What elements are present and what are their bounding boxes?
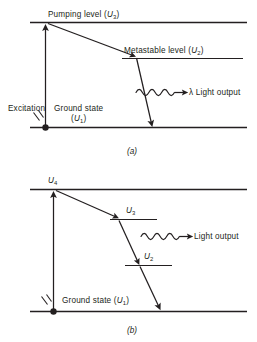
panel-b-nonradiative-decay-upper-arrow bbox=[56, 191, 116, 218]
panel-a-pumping-level-subscript: 3 bbox=[113, 14, 116, 20]
panel-a-ground-state-subscript: 1 bbox=[80, 118, 83, 124]
panel-b-ground-state-label: Ground state (U1) bbox=[62, 296, 129, 307]
panel-a-caption: (a) bbox=[127, 147, 137, 156]
panel-a-ground-state-label: Ground state(U1) bbox=[54, 104, 103, 124]
panel-a-metastable-label: Metastable level (U2) bbox=[124, 46, 204, 57]
panel-b-ground-state-paren: ) bbox=[126, 296, 129, 305]
panel-a-metastable-subscript: 2 bbox=[197, 50, 200, 56]
panel-b-level2-subscript: 2 bbox=[150, 256, 153, 262]
panel-a-ground-state-text: Ground state bbox=[54, 104, 103, 113]
panel-b-ground-state-text: Ground state ( bbox=[62, 296, 117, 305]
panel-a-nonradiative-decay-arrow bbox=[48, 24, 133, 56]
panel-b-level2-label: U2 bbox=[144, 252, 154, 263]
panel-b-radiative-decay-arrow bbox=[119, 221, 138, 263]
panel-b-caption: (b) bbox=[127, 326, 137, 335]
panel-b-level4-label: U4 bbox=[48, 176, 58, 187]
panel-a-excitation-hatch-1 bbox=[34, 113, 40, 121]
panel-b-level3-subscript: 3 bbox=[132, 210, 135, 216]
panel-a-pumping-level-text: Pumping level ( bbox=[48, 10, 107, 19]
energy-level-figure: Pumping level (U3) Metastable level (U2)… bbox=[0, 0, 257, 342]
panel-b-light-output-label: Light output bbox=[194, 232, 239, 242]
panel-a-lambda-symbol: λ bbox=[189, 88, 193, 97]
panel-b-photon-wave bbox=[141, 233, 179, 239]
panel-a-ground-state-node bbox=[42, 124, 48, 130]
panel-b-level4-subscript: 4 bbox=[54, 180, 57, 186]
panel-a-pumping-level-paren: ) bbox=[116, 10, 119, 19]
panel-b-level3-label: U3 bbox=[126, 206, 136, 217]
panel-a-photon-wave bbox=[136, 89, 174, 95]
panel-b-nonradiative-decay-lower-arrow bbox=[140, 267, 159, 308]
panel-b-excitation-hatch-1 bbox=[42, 297, 48, 305]
panel-b-excitation-hatch-2 bbox=[47, 295, 52, 302]
panel-a-pumping-level-label: Pumping level (U3) bbox=[48, 10, 119, 21]
panel-b-ground-state-node bbox=[50, 308, 56, 314]
panel-a-metastable-paren: ) bbox=[201, 46, 204, 55]
panel-b-ground-state-subscript: 1 bbox=[123, 300, 126, 306]
panel-b-ground-state-symbol: U bbox=[117, 296, 123, 305]
panel-a-excitation-label: Excitation bbox=[8, 104, 45, 114]
panel-a-light-output-text: Light output bbox=[196, 88, 241, 97]
panel-a-ground-state-paren-close: ) bbox=[83, 114, 86, 123]
panel-a-metastable-text: Metastable level ( bbox=[124, 46, 191, 55]
panel-a-light-output-label: λ Light output bbox=[189, 88, 240, 98]
